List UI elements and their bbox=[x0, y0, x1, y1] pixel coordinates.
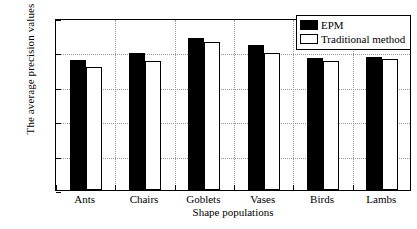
bar-goblets-traditional-method bbox=[204, 42, 220, 190]
x-tick-mark bbox=[175, 185, 176, 190]
gridline-vertical bbox=[115, 20, 116, 190]
x-tick-mark bbox=[56, 185, 57, 190]
bar-birds-epm bbox=[307, 58, 323, 190]
bar-group bbox=[188, 20, 220, 190]
x-tick-mark bbox=[115, 185, 116, 190]
y-tick-mark bbox=[56, 89, 61, 90]
y-tick-mark bbox=[56, 123, 61, 124]
y-tick-mark bbox=[56, 158, 61, 159]
bar-ants-traditional-method bbox=[86, 67, 102, 190]
bar-vases-epm bbox=[248, 45, 264, 190]
bar-chairs-epm bbox=[129, 53, 145, 190]
bar-vases-traditional-method bbox=[264, 53, 280, 190]
bar-goblets-epm bbox=[188, 38, 204, 190]
y-tick-mark bbox=[56, 192, 61, 193]
y-tick-mark bbox=[56, 54, 61, 55]
gridline-horizontal bbox=[56, 158, 410, 159]
legend-swatch-epm bbox=[300, 20, 318, 30]
bar-lambs-traditional-method bbox=[382, 59, 398, 190]
x-axis-title: Shape populations bbox=[55, 206, 411, 218]
bar-lambs-epm bbox=[366, 57, 382, 190]
gridline-horizontal bbox=[56, 54, 410, 55]
x-tick-label-lambs: Lambs bbox=[346, 194, 416, 205]
gridline-vertical bbox=[234, 20, 235, 190]
bar-ants-epm bbox=[70, 60, 86, 190]
bar-birds-traditional-method bbox=[323, 61, 339, 190]
chart-legend: EPM Traditional method bbox=[296, 15, 411, 50]
bar-group bbox=[70, 20, 102, 190]
y-tick-mark bbox=[56, 20, 61, 21]
bar-chairs-traditional-method bbox=[145, 61, 161, 190]
legend-label-epm: EPM bbox=[321, 20, 344, 31]
gridline-vertical bbox=[175, 20, 176, 190]
x-tick-mark bbox=[234, 185, 235, 190]
legend-item-traditional-method: Traditional method bbox=[300, 32, 407, 46]
gridline-horizontal bbox=[56, 89, 410, 90]
legend-swatch-traditional-method bbox=[300, 34, 318, 44]
gridline-horizontal bbox=[56, 123, 410, 124]
y-axis-title: The average precision values bbox=[24, 0, 36, 159]
x-tick-mark bbox=[353, 185, 354, 190]
bar-chart-figure: The average precision values 00.20.40.60… bbox=[0, 0, 417, 229]
gridline-vertical bbox=[293, 20, 294, 190]
x-tick-mark bbox=[293, 185, 294, 190]
bar-group bbox=[129, 20, 161, 190]
legend-item-epm: EPM bbox=[300, 18, 407, 32]
legend-label-traditional-method: Traditional method bbox=[321, 34, 405, 45]
bar-group bbox=[248, 20, 280, 190]
